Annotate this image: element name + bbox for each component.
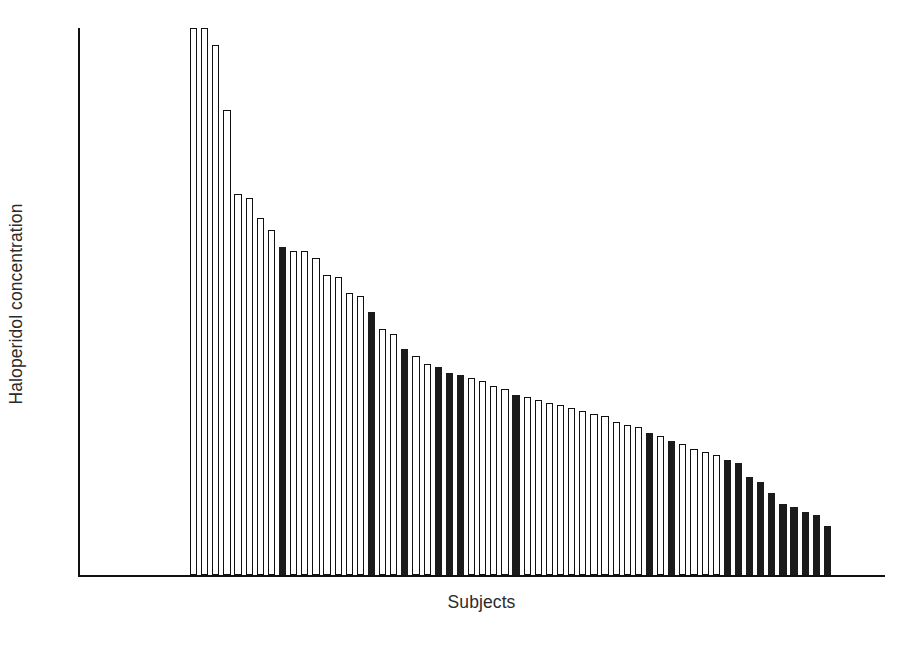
bar: [568, 408, 575, 575]
bar: [646, 433, 653, 575]
bar: [468, 378, 475, 575]
bar: [813, 515, 820, 575]
bar: [246, 198, 253, 575]
bar: [613, 422, 620, 575]
bar: [557, 405, 564, 575]
plot-area: [78, 28, 885, 577]
bar: [824, 526, 831, 575]
bar: [757, 482, 764, 575]
bar: [501, 389, 508, 575]
x-axis-title: Subjects: [78, 592, 885, 613]
bar: [724, 460, 731, 575]
bar: [357, 296, 364, 575]
bar: [512, 395, 519, 576]
bar-series: [78, 28, 885, 577]
bar: [702, 452, 709, 575]
bar: [579, 411, 586, 575]
bar: [590, 414, 597, 575]
bar: [234, 194, 241, 575]
bar: [746, 477, 753, 575]
bar: [457, 375, 464, 575]
bar: [257, 218, 264, 575]
bar: [768, 493, 775, 575]
bar: [290, 251, 297, 575]
bar: [535, 400, 542, 575]
bar: [190, 28, 197, 575]
bar: [546, 403, 553, 575]
bar: [779, 504, 786, 575]
bar: [401, 349, 408, 575]
bar: [802, 512, 809, 575]
chart-figure: Haloperidol concentration Subjects: [0, 0, 923, 654]
bar: [735, 463, 742, 575]
bar: [690, 449, 697, 575]
bar: [435, 367, 442, 575]
bar: [201, 28, 208, 575]
bar: [713, 455, 720, 575]
bar: [323, 275, 330, 575]
bar: [446, 373, 453, 575]
bar: [268, 230, 275, 575]
bar: [490, 386, 497, 575]
bar: [346, 293, 353, 575]
bar: [679, 444, 686, 575]
bar: [301, 251, 308, 575]
bar: [524, 397, 531, 575]
y-axis-title: Haloperidol concentration: [1, 30, 31, 579]
bar: [390, 334, 397, 575]
bar: [635, 427, 642, 575]
bar: [212, 45, 219, 575]
bar: [479, 381, 486, 575]
bar: [668, 441, 675, 575]
bar: [223, 110, 230, 575]
bar: [790, 507, 797, 575]
bar: [368, 312, 375, 575]
bar: [335, 277, 342, 575]
bar: [379, 329, 386, 575]
bar: [601, 416, 608, 575]
bar: [279, 247, 286, 575]
bar: [657, 436, 664, 575]
bar: [624, 425, 631, 575]
bar: [412, 356, 419, 575]
bar: [424, 364, 431, 575]
bar: [312, 258, 319, 575]
